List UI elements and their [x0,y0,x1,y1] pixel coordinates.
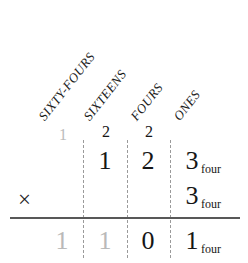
multiplicand-digit-sixteens: 1 [93,148,117,174]
product-base-subscript: four [201,243,221,255]
product-digit-sixteens: 1 [93,228,117,254]
column-label-ones: ONES [170,87,204,124]
column-separator-2 [127,140,128,258]
column-separator-1 [83,140,84,258]
carry-digit-sixteens: 2 [96,124,116,140]
multiplicand-base-subscript: four [201,163,221,175]
product-digit-fours: 0 [136,228,160,254]
carry-digit-fours: 2 [139,124,159,140]
column-label-sixteens: SIXTEENS [80,67,130,124]
carry-digit-sixty-fours: 1 [53,127,73,143]
product-digit-sixty-fours: 1 [50,228,74,254]
column-label-fours: FOURS [127,80,166,124]
multiplication-operator: × [18,188,31,211]
column-separator-3 [170,140,171,258]
multiplier-base-subscript: four [201,198,221,210]
multiplicand-digit-fours: 2 [136,148,160,174]
base-four-multiplication-figure: SIXTY-FOURS SIXTEENS FOURS ONES 1 2 2 1 … [0,0,248,263]
sum-horizontal-rule [10,217,240,219]
